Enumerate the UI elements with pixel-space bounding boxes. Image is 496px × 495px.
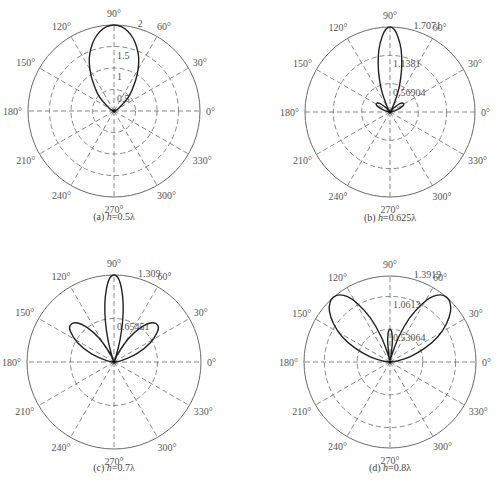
caption-value: =0.7λ (112, 462, 135, 473)
angle-spoke (39, 362, 114, 406)
angle-label: 30° (468, 58, 482, 69)
angle-spoke (71, 37, 114, 111)
caption-value: =0.8λ (388, 462, 411, 473)
angle-spoke (71, 362, 115, 437)
subfigure-caption: (a) h=0.5λ (93, 211, 135, 223)
angle-label: 330° (468, 155, 487, 166)
angle-spoke (40, 68, 114, 111)
angle-spoke (114, 111, 188, 154)
angle-label: 30° (469, 308, 483, 319)
angle-label: 210° (15, 406, 34, 417)
origin-dot (112, 109, 116, 113)
origin-dot (388, 110, 392, 114)
angle-spoke (114, 68, 188, 111)
subfigure-caption: (c) h=0.7λ (93, 462, 135, 474)
angle-label: 180° (280, 107, 299, 118)
angle-label: 150° (15, 307, 34, 318)
angle-label: 180° (2, 357, 21, 368)
angle-label: 0° (481, 107, 490, 118)
angle-spoke (347, 288, 390, 362)
angle-label: 330° (194, 406, 213, 417)
angle-label: 180° (3, 106, 22, 117)
angle-label: 120° (52, 271, 71, 282)
angle-label: 330° (193, 155, 212, 166)
angle-label: 90° (107, 258, 121, 269)
radial-tick-label: 1.7071 (414, 20, 442, 31)
radial-tick-label: 1.309 (138, 268, 161, 279)
polar-chart-c: 0°30°60°90°120°150°180°210°240°270°300°3… (2, 258, 216, 475)
polar-pattern-figure: 0°30°60°90°120°150°180°210°240°270°300°3… (0, 0, 496, 495)
angle-spoke (347, 362, 390, 436)
angle-label: 90° (383, 10, 397, 21)
angle-label: 120° (52, 21, 71, 32)
angle-label: 60° (157, 21, 171, 32)
angle-label: 180° (279, 357, 298, 368)
polar-chart-d: 0°30°60°90°120°150°180°210°240°270°300°3… (279, 259, 491, 475)
angle-label: 0° (482, 357, 491, 368)
radial-tick-label: 1.5 (117, 50, 130, 61)
angle-label: 210° (16, 155, 35, 166)
angle-spoke (114, 111, 157, 185)
angle-label: 240° (328, 441, 347, 452)
subfigure-caption: (d) h=0.8λ (369, 462, 411, 474)
angle-label: 150° (292, 308, 311, 319)
angle-label: 120° (329, 22, 348, 33)
caption-label: (c) (93, 462, 107, 474)
angle-label: 240° (52, 442, 71, 453)
angle-label: 0° (206, 106, 215, 117)
angle-spoke (348, 38, 391, 112)
angle-spoke (114, 362, 158, 437)
angle-spoke (114, 362, 189, 406)
angle-label: 150° (293, 58, 312, 69)
angle-spoke (348, 112, 391, 186)
angle-label: 300° (433, 191, 452, 202)
angle-label: 300° (433, 441, 452, 452)
angle-spoke (390, 38, 433, 112)
caption-value: =0.625λ (383, 212, 416, 223)
angle-spoke (316, 362, 390, 405)
angle-spoke (40, 111, 114, 154)
angle-spoke (390, 362, 464, 405)
angle-label: 210° (292, 406, 311, 417)
angle-label: 240° (329, 191, 348, 202)
angle-label: 90° (383, 259, 397, 270)
angle-label: 0° (207, 357, 216, 368)
angle-spoke (390, 112, 433, 186)
origin-dot (112, 360, 116, 364)
angle-label: 300° (158, 442, 177, 453)
radial-tick-label: 2 (138, 18, 143, 29)
angle-label: 300° (157, 190, 176, 201)
origin-dot (388, 360, 392, 364)
angle-spoke (71, 111, 114, 185)
angle-label: 90° (107, 8, 121, 19)
caption-label: (b) (364, 212, 378, 224)
caption-label: (a) (93, 211, 107, 223)
radial-tick-label: 1 (117, 71, 122, 82)
subfigure-caption: (b) h=0.625λ (364, 212, 416, 224)
angle-spoke (390, 362, 433, 436)
angle-label: 30° (194, 307, 208, 318)
angle-label: 330° (469, 406, 488, 417)
angle-label: 240° (52, 190, 71, 201)
angle-label: 120° (328, 272, 347, 283)
polar-chart-a: 0°30°60°90°120°150°180°210°240°270°300°3… (3, 8, 215, 224)
angle-spoke (316, 319, 390, 362)
caption-label: (d) (369, 462, 383, 474)
angle-label: 30° (193, 57, 207, 68)
angle-label: 210° (293, 155, 312, 166)
polar-chart-b: 0°30°60°90°120°150°180°210°240°270°300°3… (280, 10, 490, 225)
angle-spoke (390, 112, 464, 155)
caption-value: =0.5λ (112, 211, 135, 222)
radial-tick-label: 1.1381 (393, 58, 421, 69)
radial-tick-label: 1.3919 (414, 269, 442, 280)
angle-label: 150° (16, 57, 35, 68)
angle-spoke (316, 112, 390, 155)
